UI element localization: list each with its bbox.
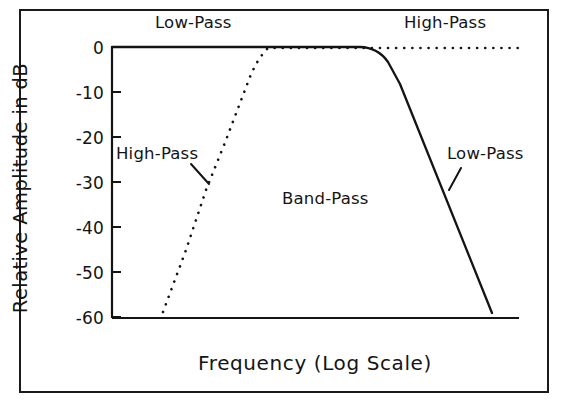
curve-high-pass-dotted — [163, 48, 519, 312]
leader-line-high-pass — [191, 164, 209, 184]
curve-low-pass-solid — [112, 47, 492, 313]
plot-area — [0, 0, 569, 402]
leader-line-low-pass — [449, 168, 461, 190]
y-axis-ticks — [112, 47, 121, 317]
figure-canvas: Relative Amplitude in dB 0 -10 -20 -30 -… — [0, 0, 569, 402]
